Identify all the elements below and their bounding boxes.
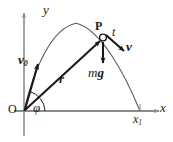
velocity-vector-label: v — [126, 40, 132, 53]
trajectory-curve — [24, 23, 140, 111]
weight-mass-symbol: m — [88, 65, 97, 80]
origin-label: O — [8, 103, 17, 115]
position-vector-label: r — [59, 72, 64, 85]
y-axis-label: y — [43, 3, 49, 16]
x1-label: x1 — [133, 113, 142, 127]
v0-subscript: 0 — [24, 59, 28, 68]
figure-canvas — [0, 0, 173, 142]
point-p-marker — [100, 34, 107, 41]
weight-vector-label: mg — [88, 66, 104, 79]
x-axis-label: x — [160, 101, 166, 114]
time-t-label: t — [112, 26, 115, 38]
angle-phi-label: φ — [33, 101, 40, 114]
weight-gravity-symbol: g — [97, 65, 104, 80]
point-p-label: P — [95, 20, 102, 32]
x1-subscript: 1 — [138, 118, 142, 127]
projectile-motion-figure: y x O φ x1 P t v v0 r mg — [0, 0, 173, 142]
initial-velocity-vector-label: v0 — [18, 53, 28, 68]
